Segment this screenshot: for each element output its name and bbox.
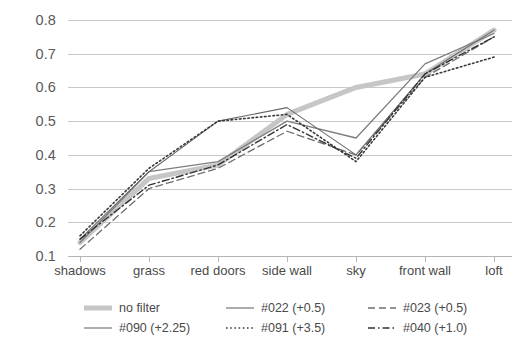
- y-tick-label: 0.7: [36, 46, 56, 62]
- legend-item[interactable]: #091 (+3.5): [226, 318, 368, 338]
- legend-item[interactable]: no filter: [84, 298, 226, 318]
- x-tick-mark: [149, 257, 150, 262]
- dotted-line-swatch-icon: [226, 322, 254, 334]
- x-tick-mark: [287, 257, 288, 262]
- y-tick-label: 0.8: [36, 12, 56, 28]
- solid-line-swatch-icon: [226, 302, 254, 314]
- legend-item[interactable]: #023 (+0.5): [368, 298, 504, 318]
- x-tick-label: red doors: [191, 263, 246, 278]
- line-chart: 0.10.20.30.40.50.60.70.8 shadowsgrassred…: [0, 0, 527, 350]
- y-tick-label: 0.1: [36, 248, 56, 264]
- legend-label: #090 (+2.25): [119, 321, 190, 335]
- thick-line-swatch-icon: [84, 302, 112, 314]
- x-tick-label: grass: [133, 263, 165, 278]
- solid-line-swatch-icon: [84, 322, 112, 334]
- y-tick-label: 0.6: [36, 79, 56, 95]
- x-tick-label: side wall: [262, 263, 312, 278]
- legend-label: no filter: [119, 301, 160, 315]
- x-tick-label: shadows: [54, 263, 105, 278]
- legend-item[interactable]: #090 (+2.25): [84, 318, 226, 338]
- series-line: [80, 57, 494, 236]
- dashed-line-swatch-icon: [368, 302, 396, 314]
- x-tick-mark: [218, 257, 219, 262]
- legend-label: #091 (+3.5): [261, 321, 325, 335]
- dash-dot-line-swatch-icon: [368, 322, 396, 334]
- x-tick-label: loft: [485, 263, 502, 278]
- legend-label: #022 (+0.5): [261, 301, 325, 315]
- y-tick-label: 0.3: [36, 181, 56, 197]
- x-tick-mark: [425, 257, 426, 262]
- legend-item[interactable]: #022 (+0.5): [226, 298, 368, 318]
- x-tick-label: front wall: [399, 263, 451, 278]
- legend-item[interactable]: #040 (+1.0): [368, 318, 504, 338]
- x-tick-mark: [80, 257, 81, 262]
- series-line: [80, 30, 494, 242]
- legend-label: #023 (+0.5): [403, 301, 467, 315]
- plot-area: [68, 20, 512, 256]
- y-tick-label: 0.4: [36, 147, 56, 163]
- series-group: [68, 20, 512, 256]
- x-tick-label: sky: [346, 263, 366, 278]
- x-axis-ticks: [68, 257, 512, 262]
- y-axis: 0.10.20.30.40.50.60.70.8: [0, 0, 64, 276]
- x-tick-mark: [356, 257, 357, 262]
- series-line: [80, 33, 494, 242]
- x-tick-mark: [494, 257, 495, 262]
- x-axis: shadowsgrassred doorsside wallskyfront w…: [68, 263, 512, 283]
- legend-label: #040 (+1.0): [403, 321, 467, 335]
- y-tick-label: 0.5: [36, 113, 56, 129]
- y-tick-label: 0.2: [36, 214, 56, 230]
- chart-legend: no filter#022 (+0.5)#023 (+0.5)#090 (+2.…: [84, 298, 504, 338]
